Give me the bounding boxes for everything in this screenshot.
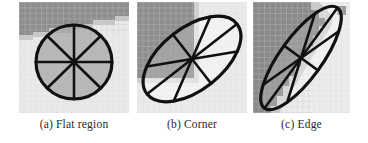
panel-edge bbox=[253, 2, 350, 113]
flat-region-image bbox=[19, 2, 129, 113]
figure-container: (a)Flat region (b)Corner (c)Edge bbox=[0, 0, 368, 143]
caption-label-c: Edge bbox=[297, 118, 321, 130]
caption-label-b: Corner bbox=[184, 118, 217, 130]
radial-spokes bbox=[36, 25, 112, 99]
caption-label-a: Flat region bbox=[56, 118, 108, 130]
caption-tag-a: (a) bbox=[40, 118, 53, 130]
corner-image bbox=[137, 2, 247, 113]
caption-tag-b: (b) bbox=[167, 118, 181, 130]
panel-flat-region bbox=[19, 2, 129, 113]
caption-tag-c: (c) bbox=[281, 118, 294, 130]
caption-row: (a)Flat region (b)Corner (c)Edge bbox=[0, 118, 368, 143]
edge-image bbox=[253, 2, 350, 113]
caption-corner: (b)Corner bbox=[137, 118, 247, 130]
structure-tensor-ellipse bbox=[36, 25, 112, 99]
caption-edge: (c)Edge bbox=[253, 118, 350, 130]
panel-row bbox=[0, 0, 368, 116]
panel-corner bbox=[137, 2, 247, 113]
caption-flat-region: (a)Flat region bbox=[19, 118, 129, 130]
